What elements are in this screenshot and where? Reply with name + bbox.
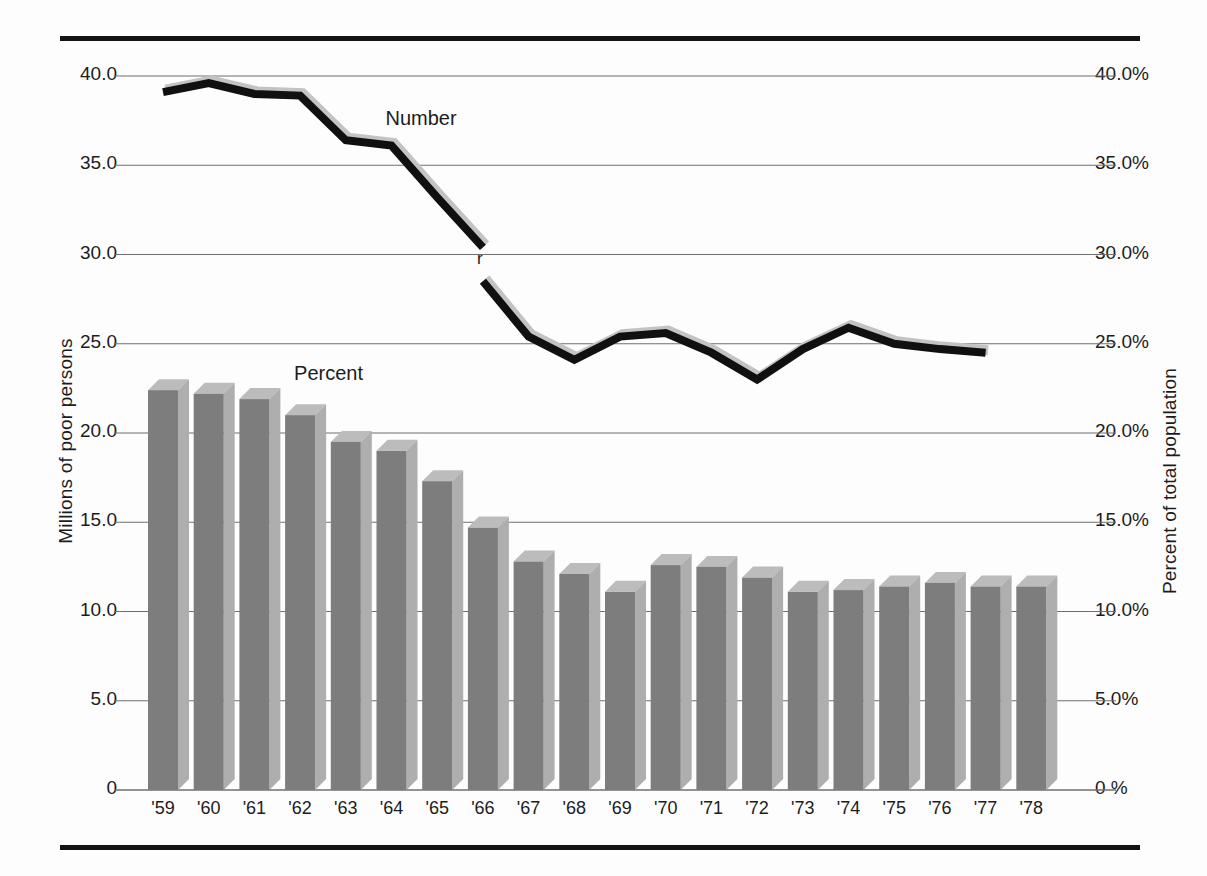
chart-figure: Millions of poor persons Percent of tota… <box>0 0 1207 876</box>
bar-y63 <box>331 431 372 790</box>
line-shadow-1 <box>485 279 988 377</box>
bar-y59 <box>148 379 189 790</box>
bar-y72 <box>742 567 783 790</box>
bar-y66 <box>468 517 509 790</box>
line-shadow-0 <box>166 81 486 245</box>
bar-y64 <box>377 440 418 790</box>
bar-y61 <box>239 388 280 790</box>
bar-y69 <box>605 581 646 790</box>
bar-y73 <box>788 581 829 790</box>
bar-y71 <box>696 556 737 790</box>
bar-y78 <box>1016 576 1057 790</box>
bar-y68 <box>559 563 600 790</box>
plot-area <box>0 0 1207 876</box>
bar-y76 <box>925 572 966 790</box>
bar-y62 <box>285 404 326 790</box>
bar-y70 <box>651 554 692 790</box>
bar-y60 <box>194 383 235 790</box>
bar-y67 <box>514 551 555 790</box>
bar-y77 <box>971 576 1012 790</box>
line-number-segment-1 <box>483 281 986 379</box>
bar-y75 <box>879 576 920 790</box>
bar-y74 <box>834 579 875 790</box>
bar-y65 <box>422 470 463 790</box>
